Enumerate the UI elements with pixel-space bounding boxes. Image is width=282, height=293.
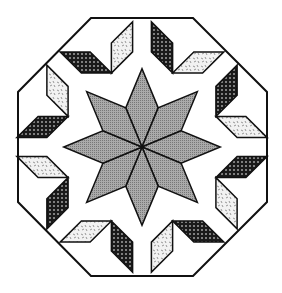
quilt-pattern	[0, 0, 282, 293]
